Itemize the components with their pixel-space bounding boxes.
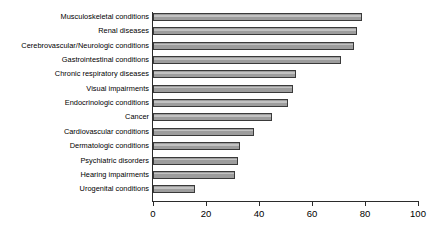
bar: [153, 142, 240, 150]
x-axis-tick-label: 60: [307, 208, 318, 219]
category-label: Cerebrovascular/Neurologic conditions: [0, 42, 149, 50]
bar: [153, 27, 357, 35]
category-label: Cardiovascular conditions: [0, 128, 149, 136]
x-axis-tick: [418, 202, 419, 206]
x-axis-tick-label: 40: [254, 208, 265, 219]
x-axis-tick: [365, 202, 366, 206]
category-label: Dermatologic conditions: [0, 142, 149, 150]
bar: [153, 85, 293, 93]
x-axis-tick-label: 80: [360, 208, 371, 219]
category-label: Endocrinologic conditions: [0, 99, 149, 107]
bar: [153, 128, 254, 136]
category-label: Cancer: [0, 113, 149, 121]
plot-area: Musculoskeletal conditions Renal disease…: [0, 0, 443, 235]
bar: [153, 70, 296, 78]
bar: [153, 171, 235, 179]
bar: [153, 185, 195, 193]
x-axis-tick-label: 0: [150, 208, 155, 219]
x-axis-tick: [259, 202, 260, 206]
bar: [153, 157, 238, 165]
bar: [153, 13, 362, 21]
category-label: Renal diseases: [0, 27, 149, 35]
category-label: Musculoskeletal conditions: [0, 13, 149, 21]
x-axis-tick: [206, 202, 207, 206]
category-axis-labels: Musculoskeletal conditions Renal disease…: [0, 13, 149, 200]
bar: [153, 42, 354, 50]
category-label: Gastrointestinal conditions: [0, 56, 149, 64]
bar: [153, 99, 288, 107]
y-axis-line: [152, 12, 153, 202]
category-label: Psychiatric disorders: [0, 157, 149, 165]
bars-layer: [153, 13, 443, 200]
category-label: Urogenital conditions: [0, 185, 149, 193]
category-label: Visual impairments: [0, 85, 149, 93]
x-axis-line: [152, 201, 419, 202]
x-axis-tick-label: 20: [201, 208, 212, 219]
category-label: Chronic respiratory diseases: [0, 70, 149, 78]
x-axis-tick: [312, 202, 313, 206]
x-axis-tick: [153, 202, 154, 206]
bar-chart: Musculoskeletal conditions Renal disease…: [0, 0, 443, 235]
category-label: Hearing impairments: [0, 171, 149, 179]
bar: [153, 113, 272, 121]
x-axis-tick-label: 100: [410, 208, 426, 219]
bar: [153, 56, 341, 64]
